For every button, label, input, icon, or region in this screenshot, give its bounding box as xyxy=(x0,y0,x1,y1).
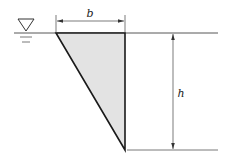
diagram-canvas: b h xyxy=(0,0,229,166)
width-label: b xyxy=(86,7,93,20)
height-label: h xyxy=(177,87,184,100)
triangular-plate xyxy=(56,33,125,150)
free-surface-icon xyxy=(18,19,34,42)
